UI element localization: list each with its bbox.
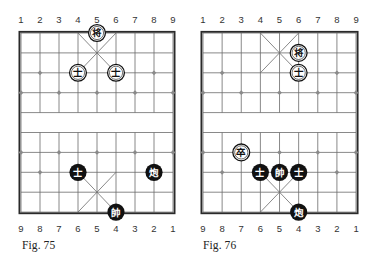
bottom-file-label: 7 xyxy=(56,223,61,234)
piece-general-filled-icon: 帥 xyxy=(107,204,124,221)
bottom-file-label: 6 xyxy=(258,223,263,234)
position-marker-icon xyxy=(335,170,340,175)
position-marker-icon xyxy=(220,170,225,175)
piece-soldier-outlined-icon: 卒 xyxy=(233,144,250,161)
bottom-file-label: 7 xyxy=(239,223,244,234)
top-file-label: 4 xyxy=(75,14,80,25)
position-marker-icon xyxy=(95,90,100,95)
bottom-file-label: 6 xyxy=(75,223,80,234)
position-marker-icon xyxy=(38,170,43,175)
position-marker-icon xyxy=(277,150,282,155)
position-marker-icon xyxy=(315,90,320,95)
position-marker-icon xyxy=(38,70,43,75)
bottom-file-label: 3 xyxy=(132,223,137,234)
position-marker-icon xyxy=(335,70,340,75)
top-file-label: 7 xyxy=(315,14,320,25)
piece-label: 士 xyxy=(255,167,265,178)
piece-label: 帥 xyxy=(111,207,121,218)
piece-advisor-outlined-icon: 士 xyxy=(290,64,307,81)
top-file-label: 6 xyxy=(296,14,301,25)
bottom-file-label: 8 xyxy=(219,223,224,234)
top-file-label: 2 xyxy=(37,14,42,25)
top-file-label: 5 xyxy=(94,14,99,25)
piece-cannon-filled-icon: 炮 xyxy=(290,204,307,221)
piece-advisor-outlined-icon: 士 xyxy=(108,64,125,81)
bottom-file-label: 9 xyxy=(200,223,205,234)
bottom-file-label: 9 xyxy=(18,223,23,234)
piece-label: 士 xyxy=(73,167,83,178)
top-file-label: 3 xyxy=(56,14,61,25)
top-file-label: 1 xyxy=(200,14,205,25)
piece-label: 帥 xyxy=(275,167,285,178)
position-marker-icon xyxy=(133,90,138,95)
position-marker-icon xyxy=(57,150,62,155)
bottom-file-label: 1 xyxy=(170,223,175,234)
bottom-file-label: 2 xyxy=(334,223,339,234)
position-marker-icon xyxy=(315,150,320,155)
piece-label: 将 xyxy=(294,47,304,58)
top-file-label: 2 xyxy=(219,14,224,25)
xiangqi-diagrams: 123456789987654321将士士士炮帥1234567899876543… xyxy=(0,0,378,260)
bottom-file-label: 3 xyxy=(315,223,320,234)
board-grid xyxy=(21,33,173,212)
piece-advisor-filled-icon: 士 xyxy=(252,164,269,181)
top-file-label: 7 xyxy=(132,14,137,25)
top-file-label: 5 xyxy=(277,14,282,25)
piece-label: 士 xyxy=(73,67,83,78)
bottom-file-label: 5 xyxy=(94,223,99,234)
bottom-file-label: 4 xyxy=(113,223,118,234)
top-file-label: 8 xyxy=(151,14,156,25)
bottom-file-label: 2 xyxy=(151,223,156,234)
piece-label: 炮 xyxy=(149,167,159,178)
position-marker-icon xyxy=(133,150,138,155)
top-file-label: 3 xyxy=(239,14,244,25)
figure-caption-76: Fig. 76 xyxy=(203,239,236,251)
piece-cannon-filled-icon: 炮 xyxy=(145,164,162,181)
position-marker-icon xyxy=(277,90,282,95)
position-marker-icon xyxy=(95,150,100,155)
piece-general-filled-icon: 帥 xyxy=(271,164,288,181)
position-marker-icon xyxy=(239,90,244,95)
piece-label: 卒 xyxy=(236,147,246,158)
top-file-label: 1 xyxy=(18,14,23,25)
piece-label: 士 xyxy=(294,67,304,78)
bottom-file-label: 8 xyxy=(37,223,42,234)
board-76: 123456789987654321将士卒士帥士炮 xyxy=(200,14,358,234)
board-grid xyxy=(203,33,356,212)
piece-general-outlined-icon: 将 xyxy=(89,25,106,42)
piece-label: 士 xyxy=(294,167,304,178)
piece-advisor-filled-icon: 士 xyxy=(69,164,86,181)
position-marker-icon xyxy=(152,70,157,75)
piece-label: 士 xyxy=(111,67,121,78)
top-file-label: 9 xyxy=(353,14,358,25)
piece-advisor-filled-icon: 士 xyxy=(290,164,307,181)
top-file-label: 8 xyxy=(334,14,339,25)
piece-label: 炮 xyxy=(294,207,304,218)
position-marker-icon xyxy=(220,70,225,75)
piece-general-outlined-icon: 将 xyxy=(290,45,307,62)
bottom-file-label: 1 xyxy=(353,223,358,234)
bottom-file-label: 4 xyxy=(296,223,301,234)
top-file-label: 6 xyxy=(113,14,118,25)
piece-advisor-outlined-icon: 士 xyxy=(70,64,87,81)
position-marker-icon xyxy=(57,90,62,95)
top-file-label: 4 xyxy=(258,14,263,25)
figure-caption-75: Fig. 75 xyxy=(22,239,55,251)
board-75: 123456789987654321将士士士炮帥 xyxy=(18,14,175,234)
piece-label: 将 xyxy=(92,27,102,38)
top-file-label: 9 xyxy=(170,14,175,25)
bottom-file-label: 5 xyxy=(277,223,282,234)
